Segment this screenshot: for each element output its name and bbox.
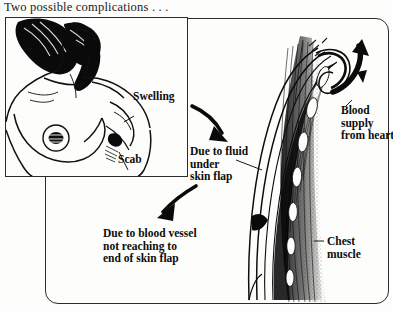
label-chest-muscle: Chest muscle (327, 235, 361, 260)
label-due-to-fluid: Due to fluid under skin flap (190, 145, 248, 183)
page-title: Two possible complications . . . (4, 0, 169, 15)
illustration-page: Two possible complications . . . (0, 0, 393, 312)
label-swelling: Swelling (133, 90, 175, 103)
label-scab: Scab (118, 153, 142, 166)
label-blood-supply: Blood supply from heart (341, 104, 393, 142)
label-due-to-blood-vessel: Due to blood vessel not reaching to end … (103, 227, 197, 265)
